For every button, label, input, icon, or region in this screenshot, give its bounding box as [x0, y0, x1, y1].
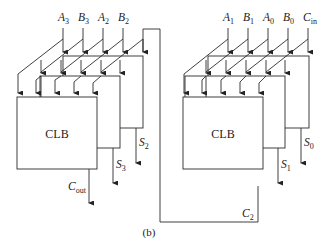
- label-cout: Cout: [68, 180, 87, 195]
- adder-diagram: CLB A3 B3 A2 B2 Cout S3 S2: [0, 0, 330, 242]
- label-s2: S2: [139, 136, 149, 151]
- label-b1: B1: [243, 11, 254, 26]
- figure-caption: (b): [143, 226, 156, 239]
- label-a0: A0: [262, 11, 274, 26]
- label-s3: S3: [116, 158, 126, 173]
- label-a3: A3: [57, 11, 69, 26]
- label-a1: A1: [222, 11, 234, 26]
- label-b3: B3: [78, 11, 89, 26]
- label-s1: S1: [281, 158, 291, 173]
- left-stage: CLB A3 B3 A2 B2 Cout S3 S2: [17, 11, 149, 203]
- label-a2: A2: [97, 11, 109, 26]
- label-b0: B0: [283, 11, 294, 26]
- label-c2: C2: [242, 207, 254, 222]
- right-stage: CLB A1 B1 A0 B0 Cin S1 S0 C2: [183, 11, 317, 222]
- label-b2: B2: [118, 11, 129, 26]
- right-clb-label: CLB: [211, 127, 234, 141]
- label-s0: S0: [304, 136, 314, 151]
- left-clb-label: CLB: [45, 127, 68, 141]
- label-cin: Cin: [303, 11, 317, 26]
